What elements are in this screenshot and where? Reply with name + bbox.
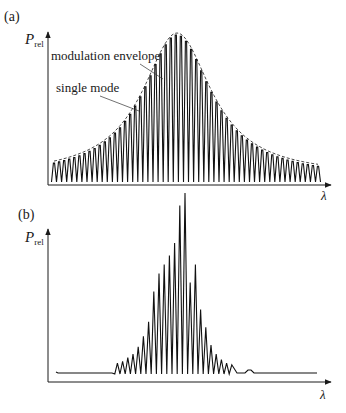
figure-canvas: (a) Prel λ modulation envelope single mo…	[0, 0, 346, 413]
panel-a-label: (a)	[4, 9, 20, 25]
panel-b-label: (b)	[18, 207, 35, 223]
annotation-single-mode: single mode	[56, 80, 119, 95]
annotation-leader-single-mode	[100, 96, 139, 111]
panel-b-x-label: λ	[319, 387, 326, 402]
panel-b: (b) Prel λ	[18, 193, 331, 402]
panel-b-y-label: Prel	[24, 229, 44, 247]
annotation-modulation-envelope: modulation envelope	[51, 48, 161, 63]
panel-a-y-label: Prel	[24, 31, 44, 49]
figure-caption	[2, 406, 346, 413]
panel-a: (a) Prel λ modulation envelope single mo…	[4, 9, 331, 203]
mode-spectrum-b	[56, 193, 317, 374]
panel-a-x-label: λ	[320, 188, 327, 203]
